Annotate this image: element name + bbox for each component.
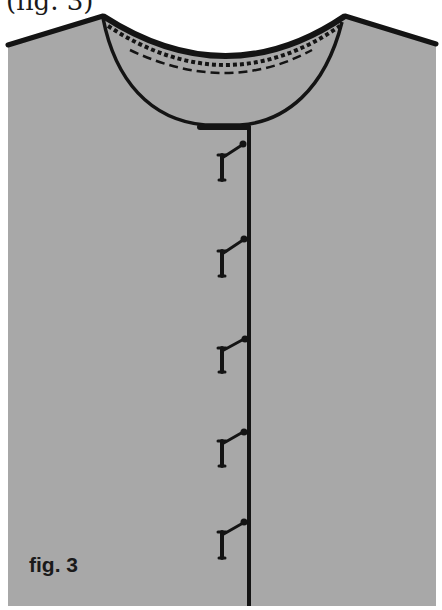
figure-label: fig. 3	[29, 553, 78, 577]
garment-illustration	[0, 0, 442, 610]
diagram-stage: (fig. 3)	[0, 0, 442, 610]
garment-body	[8, 16, 436, 606]
